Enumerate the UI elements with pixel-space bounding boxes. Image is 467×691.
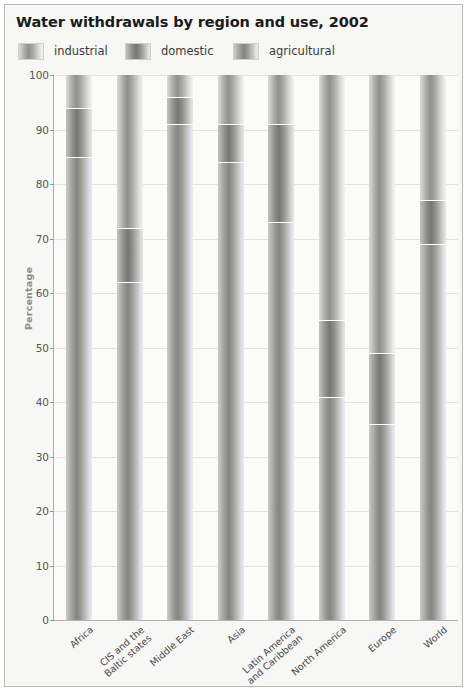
y-axis-tick-label: 40 <box>15 397 49 408</box>
bar-column[interactable] <box>319 75 345 620</box>
bar-segment-industrial[interactable] <box>167 75 193 97</box>
y-axis-tick <box>50 130 54 131</box>
bar-stack <box>268 75 294 620</box>
y-axis-tick <box>50 348 54 349</box>
bar-segment-industrial[interactable] <box>268 75 294 124</box>
x-axis-tick-label: Europe <box>366 624 398 654</box>
legend-label-domestic: domestic <box>161 44 214 58</box>
x-axis-tick-label: CIS and the Baltic states <box>95 624 154 679</box>
bar-segment-agricultural[interactable] <box>420 244 446 620</box>
gridline <box>54 75 458 76</box>
legend-item-agricultural[interactable]: agricultural <box>233 42 335 60</box>
gridline <box>54 566 458 567</box>
gridline <box>54 348 458 349</box>
bar-column[interactable] <box>218 75 244 620</box>
bar-stack <box>369 75 395 620</box>
gridline <box>54 402 458 403</box>
y-axis-tick-label: 90 <box>15 125 49 136</box>
gridline <box>54 184 458 185</box>
bar-stack <box>319 75 345 620</box>
bar-segment-agricultural[interactable] <box>268 222 294 620</box>
y-axis-tick-label: 30 <box>15 452 49 463</box>
bar-segment-domestic[interactable] <box>369 353 395 424</box>
plot-area <box>53 75 458 621</box>
bar-segment-agricultural[interactable] <box>167 124 193 620</box>
legend-label-industrial: industrial <box>54 44 108 58</box>
legend-label-agricultural: agricultural <box>269 44 335 58</box>
legend-swatch-industrial <box>18 43 44 60</box>
bar-segment-industrial[interactable] <box>369 75 395 353</box>
bar-column[interactable] <box>420 75 446 620</box>
bar-segment-agricultural[interactable] <box>66 157 92 620</box>
bar-segment-domestic[interactable] <box>268 124 294 222</box>
bar-segment-agricultural[interactable] <box>369 424 395 620</box>
gridline <box>54 511 458 512</box>
y-axis-tick <box>50 184 54 185</box>
y-axis-tick <box>50 75 54 76</box>
y-axis-tick <box>50 566 54 567</box>
gridline <box>54 293 458 294</box>
gridline <box>54 130 458 131</box>
y-axis-tick <box>50 457 54 458</box>
legend-swatch-domestic <box>125 43 151 60</box>
gridline <box>54 457 458 458</box>
bar-segment-domestic[interactable] <box>319 320 345 396</box>
y-axis-tick-label: 0 <box>15 615 49 626</box>
bar-segment-industrial[interactable] <box>117 75 143 228</box>
y-axis-tick-label: 20 <box>15 506 49 517</box>
y-axis-tick <box>50 402 54 403</box>
bar-segment-industrial[interactable] <box>420 75 446 200</box>
chart-card: Water withdrawals by region and use, 200… <box>4 4 463 687</box>
y-axis-tick-label: 70 <box>15 234 49 245</box>
y-axis-tick-label: 100 <box>15 70 49 81</box>
bar-segment-domestic[interactable] <box>218 124 244 162</box>
y-axis-tick <box>50 239 54 240</box>
bar-segment-agricultural[interactable] <box>218 162 244 620</box>
bar-stack <box>66 75 92 620</box>
bar-segment-domestic[interactable] <box>66 108 92 157</box>
chart-legend: industrial domestic agricultural <box>18 42 448 62</box>
x-axis-tick-label: Africa <box>68 624 96 650</box>
page-title: Water withdrawals by region and use, 200… <box>16 14 369 30</box>
bar-stack <box>218 75 244 620</box>
bar-segment-industrial[interactable] <box>66 75 92 108</box>
bar-segment-industrial[interactable] <box>218 75 244 124</box>
bar-stack <box>420 75 446 620</box>
y-axis-tick-label: 60 <box>15 288 49 299</box>
legend-item-industrial[interactable]: industrial <box>18 42 108 60</box>
bar-column[interactable] <box>66 75 92 620</box>
y-axis-tick <box>50 620 54 621</box>
bar-stack <box>167 75 193 620</box>
bar-column[interactable] <box>117 75 143 620</box>
bar-segment-industrial[interactable] <box>319 75 345 320</box>
y-axis-tick <box>50 511 54 512</box>
bar-column[interactable] <box>369 75 395 620</box>
legend-swatch-agricultural <box>233 43 259 60</box>
bar-segment-agricultural[interactable] <box>319 397 345 620</box>
x-axis-tick-label: World <box>421 624 449 650</box>
bar-column[interactable] <box>167 75 193 620</box>
y-axis-tick-label: 10 <box>15 561 49 572</box>
bar-segment-domestic[interactable] <box>167 97 193 124</box>
bar-segment-agricultural[interactable] <box>117 282 143 620</box>
y-axis-tick-labels: 0102030405060708090100 <box>9 75 49 620</box>
legend-item-domestic[interactable]: domestic <box>125 42 214 60</box>
y-axis-tick-label: 50 <box>15 343 49 354</box>
x-axis-tick-label: Latin America and Caribbean <box>238 624 305 686</box>
x-axis-tick-label: Middle East <box>148 624 197 668</box>
x-axis-tick-labels: AfricaCIS and the Baltic statesMiddle Ea… <box>53 622 457 691</box>
gridline <box>54 239 458 240</box>
bar-column[interactable] <box>268 75 294 620</box>
bar-segment-domestic[interactable] <box>420 200 446 244</box>
x-axis-tick-label: Asia <box>225 624 247 645</box>
bar-stack <box>117 75 143 620</box>
bar-segment-domestic[interactable] <box>117 228 143 283</box>
y-axis-tick-label: 80 <box>15 179 49 190</box>
y-axis-tick <box>50 293 54 294</box>
